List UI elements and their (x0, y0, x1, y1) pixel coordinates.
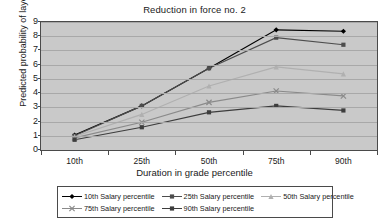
x-tick-label: 25th (112, 156, 172, 166)
data-point-marker-triangle (269, 193, 274, 198)
y-tick-label: 9 (22, 16, 38, 26)
legend-item-4[interactable]: 75th Salary percentile (62, 202, 155, 214)
gridline (41, 93, 377, 94)
x-tick-mark (41, 151, 42, 155)
legend-row: 75th Salary percentile90th Salary percen… (62, 202, 330, 214)
chart-legend: 10th Salary percentile25th Salary percen… (57, 186, 333, 218)
legend-label: 90th Salary percentile (184, 204, 255, 213)
data-point-marker-diamond (69, 193, 74, 198)
legend-label: 10th Salary percentile (84, 192, 155, 201)
series-layer (41, 22, 377, 150)
legend-label: 25th Salary percentile (184, 192, 255, 201)
gridline (41, 65, 377, 66)
legend-key-square-icon (162, 204, 182, 213)
gridline (41, 79, 377, 80)
x-tick-mark (243, 151, 244, 155)
data-point-marker-square (341, 43, 345, 47)
chart-container: Reduction in force no. 2 Predicted proba… (0, 0, 389, 224)
data-point-marker-square (207, 66, 211, 70)
gridline (41, 36, 377, 37)
data-point-marker-square (169, 206, 173, 210)
x-tick-mark (310, 151, 311, 155)
data-point-marker-diamond (274, 27, 279, 32)
gridline (41, 122, 377, 123)
x-tick-label: 75th (246, 156, 306, 166)
series-line-1 (75, 30, 344, 135)
legend-item-5[interactable]: 90th Salary percentile (162, 202, 255, 214)
x-tick-label: 50th (179, 156, 239, 166)
y-tick-label: 7 (22, 44, 38, 54)
y-tick-label: 1 (22, 130, 38, 140)
data-point-marker-square (341, 108, 345, 112)
x-tick-mark (377, 151, 378, 155)
gridline (41, 50, 377, 51)
data-point-marker-square (169, 194, 173, 198)
y-tick-label: 5 (22, 73, 38, 83)
legend-label: 75th Salary percentile (84, 204, 155, 213)
legend-item-3[interactable]: 50th Salary percentile (261, 190, 354, 202)
legend-label: 50th Salary percentile (283, 192, 354, 201)
gridline (41, 107, 377, 108)
legend-key-square-icon (162, 192, 182, 201)
y-tick-label: 0 (22, 144, 38, 154)
legend-row: 10th Salary percentile25th Salary percen… (62, 190, 330, 202)
y-tick-label: 4 (22, 87, 38, 97)
data-point-marker-square (73, 138, 77, 142)
data-point-marker-diamond (341, 29, 346, 34)
y-tick-label: 2 (22, 116, 38, 126)
legend-item-2[interactable]: 25th Salary percentile (162, 190, 255, 202)
y-axis-tick-labels: 0123456789 (22, 15, 38, 157)
legend-key-diamond-icon (62, 192, 82, 201)
y-tick-label: 8 (22, 30, 38, 40)
plot-area (40, 21, 378, 151)
x-axis-title: Duration in grade percentile (0, 167, 389, 178)
y-tick-label: 6 (22, 59, 38, 69)
x-tick-label: 10th (45, 156, 105, 166)
x-tick-mark (108, 151, 109, 155)
data-point-marker-square (140, 125, 144, 129)
legend-item-1[interactable]: 10th Salary percentile (62, 190, 155, 202)
x-tick-label: 90th (313, 156, 373, 166)
data-point-marker-cross (69, 205, 74, 210)
x-axis-tick-labels: 10th25th50th75th90th (40, 151, 378, 165)
gridline (41, 136, 377, 137)
series-line-4 (75, 91, 344, 138)
y-tick-label: 3 (22, 101, 38, 111)
legend-key-cross-icon (62, 204, 82, 213)
legend-key-triangle-icon (261, 192, 281, 201)
gridline (41, 22, 377, 23)
x-tick-mark (175, 151, 176, 155)
chart-title: Reduction in force no. 2 (0, 4, 389, 15)
data-point-marker-square (207, 110, 211, 114)
